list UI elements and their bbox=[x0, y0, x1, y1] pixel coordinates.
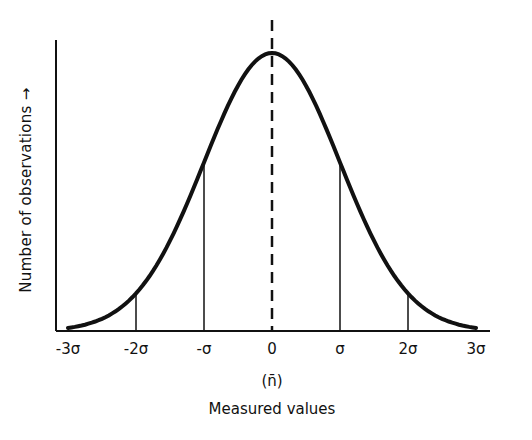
x-tick-label: 3σ bbox=[466, 340, 485, 358]
sigma-lines bbox=[136, 20, 408, 331]
x-tick-label: 2σ bbox=[398, 340, 417, 358]
x-tick-label: -2σ bbox=[124, 340, 148, 358]
x-tick-label: -3σ bbox=[56, 340, 80, 358]
x-axis-label: Measured values bbox=[209, 400, 336, 418]
x-tick-label: -σ bbox=[197, 340, 212, 358]
x-tick-label: σ bbox=[335, 340, 345, 358]
y-axis-label: Number of observations → bbox=[17, 87, 35, 292]
mean-label: (n̄) bbox=[261, 372, 282, 390]
x-tick-label: 0 bbox=[267, 340, 277, 358]
